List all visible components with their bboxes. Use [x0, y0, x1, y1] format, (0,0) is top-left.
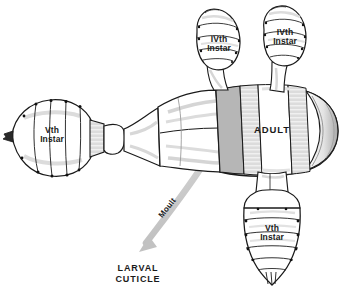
instar-iv-right-body — [264, 6, 307, 92]
larval-thorax-cuticle — [158, 90, 222, 172]
moult-arrow — [139, 160, 206, 252]
adult-body — [216, 85, 338, 177]
instar-v-left-body — [3, 99, 95, 178]
cuticle-neck — [90, 108, 160, 166]
moult-diagram-figure: IVth Instar IVth Instar Vth Instar Vth I… — [0, 0, 351, 290]
diagram-canvas — [0, 0, 351, 290]
instar-iv-left-body — [197, 9, 240, 90]
instar-v-bottom-body — [244, 172, 300, 285]
